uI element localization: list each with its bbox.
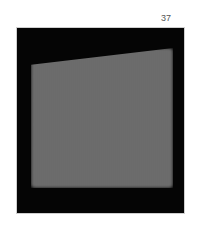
figure-image	[16, 27, 185, 214]
page-number: 37	[161, 13, 171, 23]
gray-region	[31, 48, 173, 188]
